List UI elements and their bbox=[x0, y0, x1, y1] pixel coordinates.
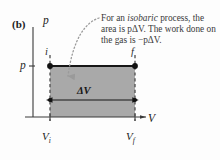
point-i-label: i bbox=[45, 47, 48, 58]
delta-v-left-endpoint bbox=[48, 98, 52, 102]
point-f-label: f bbox=[131, 47, 134, 58]
point-i-marker bbox=[47, 63, 53, 69]
panel-label: (b) bbox=[12, 19, 25, 30]
x-axis-label: V bbox=[148, 113, 155, 125]
v-initial-label: Vi bbox=[42, 131, 51, 145]
y-axis-label: p bbox=[43, 15, 49, 27]
v-final-label: Vf bbox=[126, 131, 135, 145]
v-initial-subscript: i bbox=[49, 136, 51, 145]
delta-v-right-endpoint bbox=[133, 98, 137, 102]
annotation-text: For an isobaric process, the area is pΔV… bbox=[101, 13, 219, 47]
annotation-line1-pre: For an bbox=[101, 13, 127, 23]
annotation-line1-post: process, bbox=[158, 13, 191, 23]
delta-v-label: ΔV bbox=[77, 86, 91, 97]
point-f-marker bbox=[132, 63, 138, 69]
shaded-area-pdv bbox=[50, 66, 135, 117]
annotation-line1-emphasis: isobaric bbox=[127, 13, 157, 23]
v-final-symbol: V bbox=[126, 130, 133, 142]
pv-diagram-figure: (b) p V p i f Vi Vf ΔV For an isobaric p… bbox=[0, 0, 220, 160]
x-axis-arrow bbox=[140, 115, 146, 119]
v-final-subscript: f bbox=[133, 136, 135, 145]
pressure-tick-label: p bbox=[20, 60, 26, 72]
v-initial-symbol: V bbox=[42, 130, 49, 142]
